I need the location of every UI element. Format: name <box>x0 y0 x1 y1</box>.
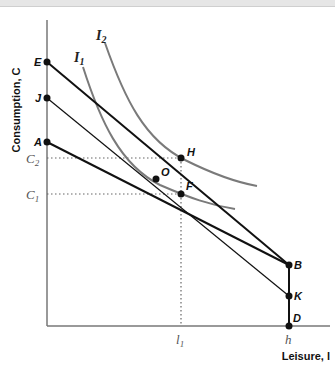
label-h-endowment: h <box>285 332 292 347</box>
budget-line-ab <box>47 142 289 265</box>
label-i2: I2 <box>95 28 106 45</box>
x-axis-title: Leisure, l <box>282 350 330 362</box>
label-i1: I1 <box>73 50 84 67</box>
point-j <box>44 95 51 102</box>
label-h: H <box>187 146 196 158</box>
indifference-curve-i1 <box>83 67 235 209</box>
label-c1: C1 <box>26 187 39 204</box>
label-a: A <box>33 136 42 148</box>
label-o: O <box>161 166 170 178</box>
budget-line-eb <box>47 62 289 265</box>
labor-leisure-diagram: Consumption, C Leisure, l E J A H O F B … <box>0 0 335 367</box>
point-k <box>286 293 293 300</box>
point-o <box>153 176 160 183</box>
point-e <box>44 59 51 66</box>
y-axis-title: Consumption, C <box>10 67 22 152</box>
label-d: D <box>293 312 301 324</box>
point-h <box>178 155 185 162</box>
point-a <box>44 139 51 146</box>
point-b <box>286 262 293 269</box>
label-j: J <box>35 92 42 104</box>
point-d <box>286 323 293 330</box>
label-b: B <box>294 259 302 271</box>
point-f <box>178 191 185 198</box>
label-k: K <box>294 290 303 302</box>
label-e: E <box>34 56 42 68</box>
label-l1: l1 <box>176 332 184 349</box>
budget-line-jk <box>47 98 289 296</box>
label-f: F <box>186 180 193 192</box>
label-c2: C2 <box>26 151 40 168</box>
